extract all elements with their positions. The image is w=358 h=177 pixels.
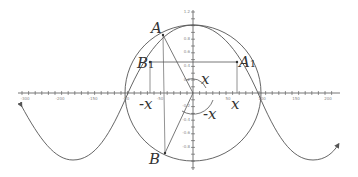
x-tick-label: 200: [324, 97, 332, 101]
label-axis-neg-x: -x: [139, 97, 153, 112]
x-tick-label: 100: [258, 97, 266, 101]
label-angle-x: x: [201, 72, 209, 87]
y-tick-label: 0.8: [184, 37, 190, 41]
x-tick-label: 50: [225, 97, 230, 101]
point-a1: [236, 61, 238, 63]
x-tick-label: -200: [55, 97, 64, 101]
point-b: [164, 152, 166, 154]
point-a: [162, 34, 164, 36]
label-point-a: A: [151, 21, 162, 36]
x-tick-label: -50: [123, 97, 130, 101]
y-tick-label: 0.4: [184, 64, 190, 68]
y-tick-label: 1.2: [184, 10, 190, 14]
y-tick-label: 0.6: [184, 50, 190, 54]
x-axis: [18, 91, 340, 95]
x-tick-label: 150: [292, 97, 300, 101]
x-tick-label: -300: [20, 97, 29, 101]
diagram-canvas: [0, 0, 358, 177]
y-tick-label: 0.2: [184, 78, 190, 82]
label-point-a1: A1: [239, 55, 256, 70]
label-angle-neg-x: -x: [203, 107, 217, 122]
y-tick-label: -0.2: [182, 104, 190, 108]
y-tick-label: -0.4: [182, 118, 190, 122]
x-tick-label: -150: [88, 97, 97, 101]
cosine-curve: [21, 25, 338, 160]
label-point-b: B: [149, 152, 160, 167]
x-tick-label: -50: [157, 97, 164, 101]
label-point-b1: B1: [137, 56, 154, 71]
y-tick-label: -0.8: [182, 145, 190, 149]
y-tick-label: -0.6: [182, 131, 190, 135]
label-axis-x: x: [231, 97, 239, 112]
